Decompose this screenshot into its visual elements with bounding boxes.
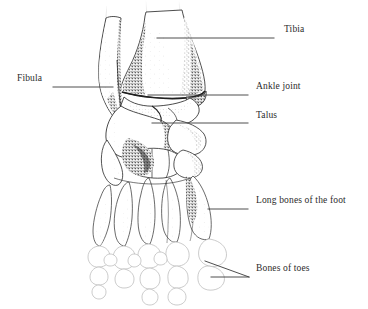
- label-talus: Talus: [256, 110, 277, 121]
- label-tibia: Tibia: [284, 24, 304, 35]
- label-ankle-joint: Ankle joint: [256, 81, 301, 92]
- label-long-bones-of-the-foot: Long bones of the foot: [256, 195, 346, 206]
- label-fibula: Fibula: [17, 73, 42, 84]
- label-bones-of-toes: Bones of toes: [256, 263, 310, 274]
- anatomical-diagram: Tibia Fibula Ankle joint Talus Long bone…: [0, 0, 368, 309]
- foot-skeleton-illustration: [0, 0, 368, 309]
